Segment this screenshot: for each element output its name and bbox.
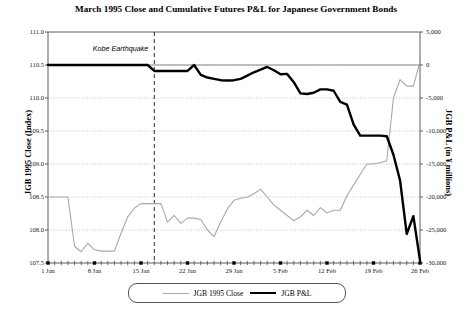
x-tick-label: 15 Jan xyxy=(119,267,163,274)
y-tick-label-right: -30,000 xyxy=(426,259,466,266)
x-tick-label: 29 Jan xyxy=(212,267,256,274)
x-tick-major xyxy=(279,261,282,264)
y-tick-label-right: -10,000 xyxy=(426,127,466,134)
y-tick-label-left: 111.0 xyxy=(8,28,44,35)
legend-label-close: JGB 1995 Close xyxy=(194,289,244,298)
y-tick-label-left: 107.5 xyxy=(8,259,44,266)
y-tick-label-right: -20,000 xyxy=(426,193,466,200)
x-tick-major xyxy=(93,261,96,264)
y-tick-label-left: 108.5 xyxy=(8,193,44,200)
x-tick-label: 19 Feb xyxy=(352,267,396,274)
annotation-label-kobe-earthquake: Kobe Earthquake xyxy=(48,44,148,53)
x-tick-major xyxy=(46,261,49,264)
y-tick-label-left: 109.0 xyxy=(8,160,44,167)
legend-item-jgb-close: JGB 1995 Close xyxy=(163,289,244,298)
y-tick-label-right: 0 xyxy=(426,61,466,68)
x-tick-major xyxy=(325,261,328,264)
x-tick-major xyxy=(139,261,142,264)
y-tick-label-left: 108.0 xyxy=(8,226,44,233)
x-tick-label: 26 Feb xyxy=(398,267,442,274)
x-tick-major xyxy=(418,261,421,264)
legend-label-pl: JGB P&L xyxy=(281,289,311,298)
series-line-jgb-p-l xyxy=(48,65,420,260)
x-tick-label: 12 Feb xyxy=(305,267,349,274)
y-tick-label-right: 5,000 xyxy=(426,28,466,35)
chart-container: March 1995 Close and Cumulative Futures … xyxy=(0,0,472,319)
x-tick-label: 22 Jan xyxy=(166,267,210,274)
y-tick-label-left: 110.5 xyxy=(8,61,44,68)
y-tick-label-right: -25,000 xyxy=(426,226,466,233)
legend-line-swatch-close xyxy=(163,293,189,294)
chart-title: March 1995 Close and Cumulative Futures … xyxy=(0,4,472,14)
y-tick-label-right: -15,000 xyxy=(426,160,466,167)
x-tick-major xyxy=(186,261,189,264)
series-line-jgb-1995-close xyxy=(48,62,420,252)
y-tick-label-left: 109.5 xyxy=(8,127,44,134)
x-tick-major xyxy=(372,261,375,264)
legend-line-swatch-pl xyxy=(250,292,276,294)
x-tick-label: 1 Jan xyxy=(26,267,70,274)
y-tick-label-left: 110.0 xyxy=(8,94,44,101)
x-tick-label: 5 Feb xyxy=(259,267,303,274)
legend-item-jgb-pl: JGB P&L xyxy=(250,289,311,298)
chart-legend: JGB 1995 Close JGB P&L xyxy=(128,283,346,303)
x-tick-major xyxy=(232,261,235,264)
x-tick-label: 8 Jan xyxy=(73,267,117,274)
y-tick-label-right: -5,000 xyxy=(426,94,466,101)
